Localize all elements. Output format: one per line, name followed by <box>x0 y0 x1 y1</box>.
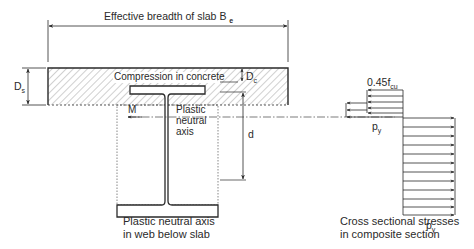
steel-compression-stress-label: py <box>372 120 381 134</box>
breadth-label: Effective breadth of slab B e <box>104 10 233 24</box>
compression-in-concrete-label: Compression in concrete <box>114 71 225 83</box>
effective-depth-label: d <box>248 128 254 140</box>
composite-section-diagram <box>0 0 474 249</box>
moment-label: M <box>128 104 136 116</box>
right-caption: Cross sectional stresses in composite se… <box>340 215 459 241</box>
concrete-stress-label: 0.45fcu <box>367 76 398 90</box>
slab-depth-label: Ds <box>14 80 25 94</box>
left-caption: Plastic neutral axis in web below slab <box>123 215 215 241</box>
breadth-dimension <box>48 20 288 62</box>
stress-diagram <box>346 90 455 215</box>
plastic-neutral-axis-label: Plastic neutral axis <box>176 104 207 137</box>
slab-depth-dimension <box>22 68 46 105</box>
compression-depth-label: Dc <box>246 70 257 84</box>
